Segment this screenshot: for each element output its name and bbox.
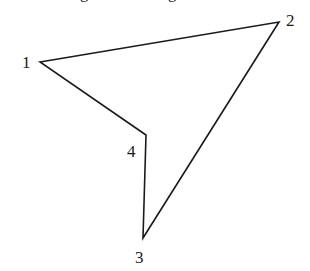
vertex-label-2: 2 bbox=[286, 11, 295, 30]
quadrilateral-outline bbox=[40, 22, 279, 238]
vertex-label-3: 3 bbox=[135, 248, 144, 267]
vertex-label-4: 4 bbox=[127, 142, 136, 161]
polygon-figure: g g 1 2 3 4 bbox=[0, 0, 310, 271]
vertex-label-1: 1 bbox=[22, 53, 31, 72]
diagram-canvas: g g 1 2 3 4 bbox=[0, 0, 310, 271]
cut-glyph: g bbox=[168, 0, 177, 2]
cut-glyph: g bbox=[80, 0, 89, 2]
top-cut-text: g g bbox=[80, 0, 177, 2]
